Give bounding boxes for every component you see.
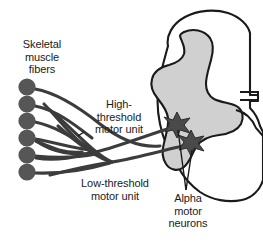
label-high-threshold-motor-unit: High- threshold motor unit (78, 98, 160, 136)
label-skeletal-muscle-fibers: Skeletal muscle fibers (4, 38, 80, 76)
label-alpha-motor-neurons: Alpha motor neurons (152, 192, 224, 230)
label-high-line-3: motor unit (78, 123, 160, 136)
axon-fiber-5-stalk (35, 154, 96, 157)
label-skeletal-line-3: fibers (4, 63, 80, 76)
motor-unit-diagram: Skeletal muscle fibers High- threshold m… (0, 0, 263, 241)
muscle-fiber-group (18, 78, 35, 180)
label-alpha-line-3: neurons (152, 217, 224, 230)
label-alpha-line-1: Alpha (152, 192, 224, 205)
label-skeletal-line-2: muscle (4, 51, 80, 64)
muscle-fiber-6 (18, 163, 35, 180)
muscle-fiber-5 (18, 146, 35, 163)
label-high-line-1: High- (78, 98, 160, 111)
label-alpha-line-2: motor (152, 205, 224, 218)
muscle-fiber-1 (18, 78, 35, 95)
label-high-line-2: threshold (78, 111, 160, 124)
muscle-fiber-4 (18, 129, 35, 146)
muscle-fiber-3 (18, 112, 35, 129)
label-skeletal-line-1: Skeletal (4, 38, 80, 51)
muscle-fiber-2 (18, 95, 35, 112)
label-low-line-1: Low-threshold (62, 177, 168, 190)
